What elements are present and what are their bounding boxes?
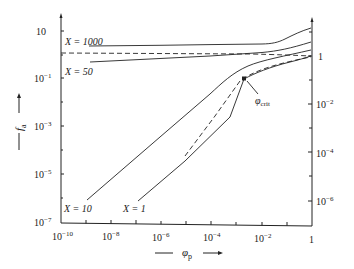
- right-y-ticks: [308, 32, 312, 201]
- x-label-1e-10: 10−10: [52, 230, 73, 242]
- svg-text:φp: φp: [182, 246, 192, 261]
- y-left-label-10: 10: [36, 26, 46, 37]
- right-y-tick-labels: 1 10−2 10−4 10−6: [316, 51, 334, 207]
- y-left-label-1e-1: 10−1: [34, 72, 52, 84]
- left-axis-arrowhead: [60, 13, 63, 18]
- curve-labels: X = 1000 X = 50 X = 10 X = 1: [63, 36, 146, 214]
- x-label-1e-8: 10−8: [102, 230, 120, 242]
- curve-x-1: [138, 56, 311, 201]
- x-label-1e-2: 10−2: [254, 232, 272, 244]
- y-axis-title: fa: [13, 93, 28, 150]
- y-right-label-1: 1: [318, 51, 323, 62]
- label-x-1: X = 1: [122, 203, 146, 214]
- x-axis-title: φp: [155, 246, 223, 261]
- y-right-label-1e-4: 10−4: [316, 147, 334, 159]
- x-label-1e-6: 10−6: [152, 231, 170, 243]
- right-axis-arrowhead: [311, 17, 314, 22]
- axes: [61, 16, 312, 226]
- y-left-label-1e-5: 10−5: [34, 168, 52, 180]
- label-x-50: X = 50: [64, 66, 93, 77]
- phi-crit-label: φcrit: [255, 95, 270, 108]
- y-left-label-1e-3: 10−3: [34, 120, 52, 132]
- phi-crit-arrow: [247, 81, 258, 94]
- left-y-tick-labels: 10 10−1 10−3 10−5 10−7: [34, 26, 52, 228]
- x-label-1e-4: 10−4: [203, 231, 221, 243]
- y-right-label-1e-2: 10−2: [316, 98, 334, 110]
- curve-dashed-lower: [185, 57, 311, 156]
- x-label-1: 1: [309, 234, 314, 245]
- curves: [61, 28, 311, 201]
- curve-dashed-upper: [61, 53, 311, 56]
- phi-crit-marker: [242, 77, 246, 81]
- curve-x-10: [87, 50, 311, 200]
- phi-crit-annotation: φcrit: [242, 77, 270, 109]
- chart: 10 10−1 10−3 10−5 10−7 1 10−2 10−4 10−6 …: [0, 0, 354, 269]
- svg-text:fa: fa: [13, 124, 28, 131]
- label-x-10: X = 10: [63, 203, 92, 214]
- curve-x-1000: [89, 28, 311, 46]
- y-left-label-1e-7: 10−7: [34, 216, 52, 228]
- x-tick-labels: 10−10 10−8 10−6 10−4 10−2 1: [52, 230, 314, 245]
- label-x-1000: X = 1000: [64, 36, 103, 47]
- y-right-label-1e-6: 10−6: [316, 195, 334, 207]
